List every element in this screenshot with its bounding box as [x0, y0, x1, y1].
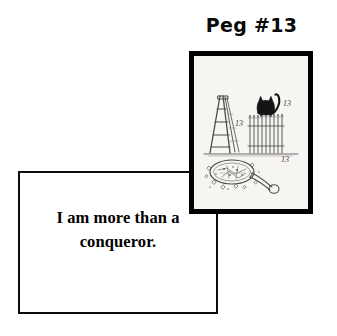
affirmation-line-1: I am more than a [56, 208, 179, 227]
affirmation-text: I am more than a conqueror. [42, 206, 193, 279]
label-13-mirror: 13 [281, 155, 289, 164]
picture-frame: 13 13 13 [189, 51, 313, 214]
affirmation-line-2: conqueror. [80, 232, 157, 251]
peg-image-13: 13 13 13 [194, 56, 308, 209]
label-13-ladder: 13 [235, 119, 243, 128]
label-13-cat: 13 [283, 99, 291, 108]
affirmation-text-box: I am more than a conqueror. [18, 171, 218, 314]
page-title: Peg #13 [189, 14, 314, 36]
superstition-illustration-svg: 13 13 13 [194, 56, 308, 209]
